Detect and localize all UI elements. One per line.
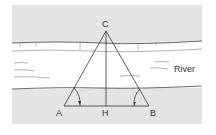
label-b: B — [150, 109, 156, 118]
label-a: A — [56, 109, 62, 118]
label-river: River — [174, 65, 195, 74]
label-h: H — [102, 109, 109, 118]
label-c: C — [102, 20, 109, 29]
